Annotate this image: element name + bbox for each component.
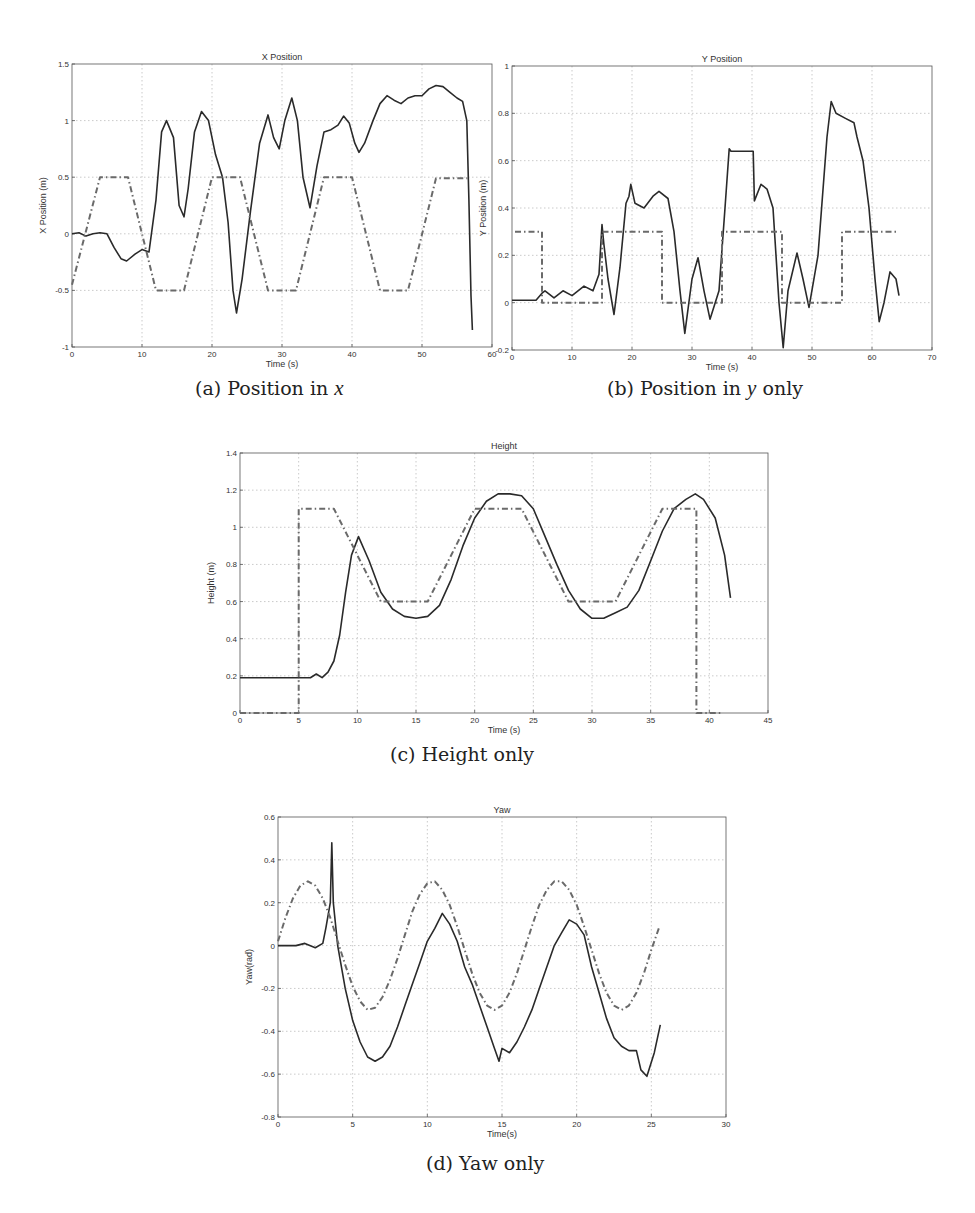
svg-text:20: 20: [470, 716, 479, 725]
svg-text:0.6: 0.6: [264, 813, 276, 822]
caption-a-prefix: (a) Position in: [195, 377, 334, 399]
svg-text:0.6: 0.6: [498, 157, 510, 166]
svg-text:20: 20: [572, 1120, 581, 1129]
svg-text:0.2: 0.2: [264, 899, 276, 908]
chart-title: Yaw: [494, 805, 511, 815]
svg-text:0: 0: [271, 942, 276, 951]
svg-text:0.2: 0.2: [226, 672, 238, 681]
svg-text:10: 10: [138, 350, 147, 359]
svg-text:40: 40: [748, 353, 757, 362]
svg-text:1: 1: [505, 62, 510, 71]
series-actual: [278, 843, 660, 1077]
svg-text:30: 30: [278, 350, 287, 359]
y-axis-label: Yaw(rad): [244, 949, 254, 985]
chart-title: Height: [491, 441, 518, 451]
svg-text:40: 40: [705, 716, 714, 725]
svg-text:-0.5: -0.5: [55, 286, 69, 295]
x-axis-ticks: 0102030405060: [70, 344, 497, 359]
svg-text:-0.2: -0.2: [261, 984, 275, 993]
x-axis-label: Time (s): [266, 359, 299, 369]
svg-text:1.4: 1.4: [226, 449, 238, 458]
chart-height: 05101520253035404500.20.40.60.811.21.4He…: [200, 437, 790, 737]
x-axis-ticks: 010203040506070: [510, 347, 937, 362]
svg-text:50: 50: [808, 353, 817, 362]
svg-text:0.6: 0.6: [226, 598, 238, 607]
caption-a: (a) Position in x: [195, 376, 344, 401]
svg-text:-0.6: -0.6: [261, 1070, 275, 1079]
svg-text:20: 20: [208, 350, 217, 359]
svg-text:0.8: 0.8: [498, 109, 510, 118]
chart-title: X Position: [262, 52, 303, 62]
caption-b: (b) Position in y only: [607, 376, 803, 401]
figure-a-x-position: 0102030405060-1-0.500.511.5X PositionTim…: [30, 52, 500, 372]
svg-text:10: 10: [423, 1120, 432, 1129]
y-axis-label: X Position (m): [38, 177, 48, 234]
svg-text:0.2: 0.2: [498, 251, 510, 260]
y-axis-label: Y Position (m): [478, 180, 488, 236]
svg-text:25: 25: [647, 1120, 656, 1129]
chart-y-position: 010203040506070-0.200.20.40.60.81Y Posit…: [490, 52, 950, 372]
svg-text:-0.4: -0.4: [261, 1027, 275, 1036]
svg-text:0.4: 0.4: [226, 635, 238, 644]
svg-text:25: 25: [529, 716, 538, 725]
x-axis-label: Time (s): [706, 362, 739, 372]
chart-x-position: 0102030405060-1-0.500.511.5X PositionTim…: [30, 52, 500, 372]
svg-text:50: 50: [418, 350, 427, 359]
figure-c-height: 05101520253035404500.20.40.60.811.21.4He…: [200, 437, 790, 737]
caption-d: (d) Yaw only: [426, 1152, 544, 1174]
svg-text:1.2: 1.2: [226, 486, 238, 495]
x-axis-label: Time(s): [487, 1129, 517, 1139]
svg-text:0: 0: [505, 299, 510, 308]
svg-text:0.5: 0.5: [58, 173, 70, 182]
svg-text:-1: -1: [62, 343, 70, 352]
series-reference: [240, 509, 721, 713]
svg-text:1.5: 1.5: [58, 60, 70, 69]
svg-text:0: 0: [233, 709, 238, 718]
svg-text:35: 35: [646, 716, 655, 725]
svg-text:15: 15: [412, 716, 421, 725]
caption-c: (c) Height only: [390, 743, 534, 765]
svg-text:15: 15: [498, 1120, 507, 1129]
svg-text:0.8: 0.8: [226, 560, 238, 569]
svg-text:30: 30: [588, 716, 597, 725]
svg-text:10: 10: [568, 353, 577, 362]
svg-text:30: 30: [688, 353, 697, 362]
chart-yaw: 051015202530-0.8-0.6-0.4-0.200.20.40.6Ya…: [240, 797, 740, 1147]
grid: [240, 453, 768, 713]
svg-text:70: 70: [928, 353, 937, 362]
series-actual: [512, 102, 899, 348]
svg-text:0: 0: [70, 350, 75, 359]
svg-text:0: 0: [276, 1120, 281, 1129]
chart-title: Y Position: [702, 54, 742, 64]
svg-text:1: 1: [65, 117, 70, 126]
svg-text:0: 0: [238, 716, 243, 725]
svg-text:0.4: 0.4: [498, 204, 510, 213]
svg-text:45: 45: [764, 716, 773, 725]
x-axis-ticks: 051015202530: [276, 1114, 731, 1129]
svg-text:5: 5: [350, 1120, 355, 1129]
svg-text:30: 30: [722, 1120, 731, 1129]
svg-text:20: 20: [628, 353, 637, 362]
caption-b-suffix: only: [756, 377, 803, 399]
svg-text:60: 60: [868, 353, 877, 362]
caption-d-text: (d) Yaw only: [426, 1152, 544, 1174]
caption-b-prefix: (b) Position in: [607, 377, 747, 399]
svg-text:40: 40: [348, 350, 357, 359]
figure-b-y-position: 010203040506070-0.200.20.40.60.81Y Posit…: [490, 52, 950, 372]
svg-text:-0.2: -0.2: [495, 346, 509, 355]
caption-a-var: x: [334, 376, 343, 400]
svg-text:-0.8: -0.8: [261, 1113, 275, 1122]
svg-text:0: 0: [510, 353, 515, 362]
x-axis-ticks: 051015202530354045: [238, 710, 773, 725]
series-actual: [72, 86, 472, 331]
svg-text:5: 5: [296, 716, 301, 725]
figure-d-yaw: 051015202530-0.8-0.6-0.4-0.200.20.40.6Ya…: [240, 797, 740, 1147]
x-axis-label: Time (s): [488, 725, 521, 735]
plot-frame: [240, 453, 768, 713]
y-axis-label: Height (m): [206, 562, 216, 604]
svg-text:0: 0: [65, 230, 70, 239]
svg-text:0.4: 0.4: [264, 856, 276, 865]
svg-text:1: 1: [233, 523, 238, 532]
svg-text:10: 10: [353, 716, 362, 725]
series-reference: [515, 232, 899, 303]
